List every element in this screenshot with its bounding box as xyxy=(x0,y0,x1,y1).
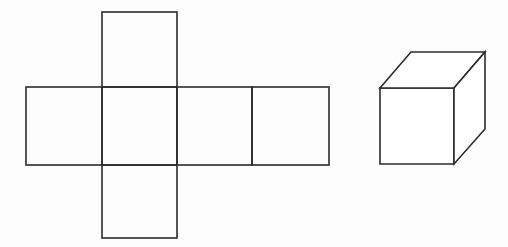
net-far-right-square xyxy=(252,87,329,165)
net-center-square xyxy=(102,87,177,165)
net-top-square xyxy=(102,12,177,87)
cube-figure xyxy=(380,52,485,164)
cube-front-face xyxy=(380,88,454,164)
cube-net-diagram xyxy=(0,0,508,247)
diagram-canvas xyxy=(0,0,508,247)
net-right-square xyxy=(177,87,252,165)
net-left-square xyxy=(26,87,102,165)
net-bottom-square xyxy=(102,165,177,238)
cube-net xyxy=(26,12,329,238)
